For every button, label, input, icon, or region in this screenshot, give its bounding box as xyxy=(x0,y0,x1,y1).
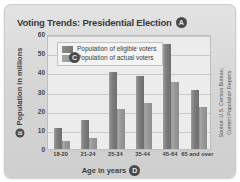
chart-screenshot: Voting Trends: Presidential Election A B… xyxy=(0,0,240,182)
bar-actual xyxy=(62,141,70,149)
x-axis-label-row: Age in years D xyxy=(5,165,217,176)
bar-group xyxy=(185,36,212,149)
x-axis-tick-label: 25-34 xyxy=(108,152,123,158)
bar-eligible xyxy=(54,128,62,149)
source-credit: Source: U.S. Census Bureau, Current Popu… xyxy=(218,68,233,137)
bar-eligible xyxy=(163,44,171,149)
bar-actual xyxy=(117,109,125,149)
legend-label: Population of eligible voters xyxy=(77,46,157,53)
y-axis-label: Population in millions xyxy=(16,48,25,126)
bar-actual xyxy=(144,103,152,149)
source-line-2: Current Population Reports xyxy=(226,68,234,137)
y-axis-tick-label: 0 xyxy=(41,147,45,154)
source-credit-wrap: Source: U.S. Census Bureau, Current Popu… xyxy=(211,43,240,163)
x-axis-tick-label: 45-64 xyxy=(163,152,178,158)
badge-c-wrap: C xyxy=(69,46,80,57)
bar-eligible xyxy=(191,90,199,149)
bar-actual xyxy=(89,138,97,150)
bar-eligible xyxy=(81,120,89,149)
y-axis-tick-label: 10 xyxy=(38,128,45,135)
x-axis-tick-label: 65 and over xyxy=(181,152,213,158)
badge-c-icon: C xyxy=(69,52,80,63)
bar-actual xyxy=(199,107,207,149)
y-axis-label-wrap: B Population in millions xyxy=(13,35,27,150)
x-axis-tick-label: 21-24 xyxy=(81,152,96,158)
bar-actual xyxy=(171,82,179,149)
x-axis-ticks: 18-2021-2425-3435-4445-6465 and over xyxy=(47,152,211,162)
page-title: Voting Trends: Presidential Election xyxy=(17,17,172,28)
x-axis-label: Age in years xyxy=(82,166,127,175)
badge-a-icon: A xyxy=(176,17,187,28)
y-axis-ticks: 0102030405060 xyxy=(29,35,45,150)
bar-eligible xyxy=(109,72,117,149)
badge-b-icon: B xyxy=(16,128,25,137)
y-axis-tick-label: 40 xyxy=(38,70,45,77)
y-axis-tick-label: 20 xyxy=(38,108,45,115)
bar-eligible xyxy=(136,76,144,149)
y-axis-tick-label: 30 xyxy=(38,89,45,96)
y-axis-tick-label: 60 xyxy=(38,32,45,39)
badge-d-icon: D xyxy=(129,165,140,176)
legend-label: Population of actual voters xyxy=(77,55,154,62)
y-axis-tick-label: 50 xyxy=(38,51,45,58)
source-line-1: Source: U.S. Census Bureau, xyxy=(218,68,226,137)
x-axis-tick-label: 18-20 xyxy=(53,152,68,158)
x-axis-tick-label: 35-44 xyxy=(135,152,150,158)
chart-card: Voting Trends: Presidential Election A B… xyxy=(4,4,236,178)
chart-title-row: Voting Trends: Presidential Election A xyxy=(17,17,187,28)
